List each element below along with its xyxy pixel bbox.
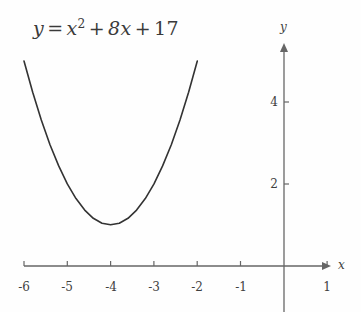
equation-term3: 17 xyxy=(154,17,179,39)
equation-plus-2: + xyxy=(132,17,154,39)
equation-equals: = xyxy=(44,17,66,39)
y-axis-arrow-icon xyxy=(280,43,288,52)
equation-term1-base: x xyxy=(66,17,77,39)
y-tick-label-4: 4 xyxy=(264,96,278,108)
equation-lhs: y xyxy=(33,17,44,39)
y-tick-label-2: 2 xyxy=(264,178,278,190)
equation-term2: 8x xyxy=(108,17,132,39)
parabola-curve xyxy=(24,61,197,225)
plot-canvas xyxy=(0,0,361,312)
x-tick-label-neg3: -3 xyxy=(148,281,160,293)
x-tick-label-neg4: -4 xyxy=(105,281,117,293)
x-tick-label-neg1: -1 xyxy=(235,281,247,293)
x-tick-label-neg5: -5 xyxy=(61,281,73,293)
equation-plus-1: + xyxy=(86,17,108,39)
y-axis-ticks xyxy=(284,102,289,184)
x-tick-label-neg6: -6 xyxy=(18,281,30,293)
x-tick-label-neg2: -2 xyxy=(191,281,203,293)
x-axis-ticks xyxy=(24,261,327,266)
equation-term1-exponent: 2 xyxy=(78,17,86,31)
y-axis-label: y xyxy=(280,21,287,33)
x-axis-label: x xyxy=(338,259,345,271)
equation-annotation: y=x2+8x+17 xyxy=(33,18,179,38)
x-tick-label-pos1: 1 xyxy=(323,281,331,293)
parabola-figure: y=x2+8x+17 -6 -5 -4 -3 -2 -1 1 2 4 x y xyxy=(0,0,361,312)
